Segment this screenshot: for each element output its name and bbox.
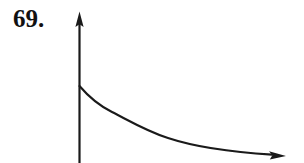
decay-curve-group <box>80 86 287 160</box>
plot-graphic <box>0 0 304 163</box>
decay-curve-path <box>80 86 273 155</box>
figure-container: 69. <box>0 0 304 163</box>
